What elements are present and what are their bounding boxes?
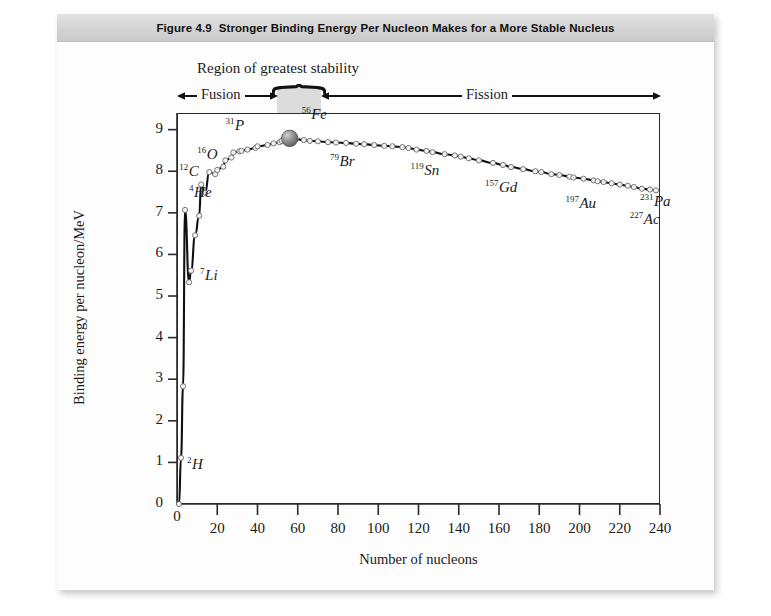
nuclide-mass-number: 231 — [640, 192, 654, 202]
x-tick-label: 140 — [439, 520, 479, 537]
x-tick-label: 120 — [399, 520, 439, 537]
y-tick-label: 5 — [141, 286, 163, 303]
x-tick-label: 100 — [358, 520, 398, 537]
x-tick-label: 200 — [560, 520, 600, 537]
nuclide-label-sn: 119Sn — [410, 162, 439, 178]
nuclide-symbol: Li — [205, 267, 218, 283]
nuclide-symbol: Ac — [644, 211, 660, 227]
nuclide-symbol: He — [194, 184, 212, 200]
x-tick-label: 80 — [318, 520, 358, 537]
y-tick-label: 9 — [141, 120, 163, 137]
nuclide-label-p: 31P — [225, 117, 244, 133]
x-tick-label: 180 — [519, 520, 559, 537]
x-tick-label: 40 — [238, 520, 278, 537]
nuclide-mass-number: 157 — [485, 178, 499, 188]
nuclide-mass-number: 79 — [330, 152, 339, 162]
nuclide-symbol: Pa — [654, 193, 671, 209]
nuclide-label-pa: 231Pa — [640, 193, 671, 209]
nuclide-mass-number: 119 — [410, 161, 423, 171]
y-tick-label: 3 — [141, 369, 163, 386]
nuclide-mass-number: 197 — [565, 194, 579, 204]
nuclide-label-au: 197Au — [565, 195, 596, 211]
nuclide-label-h: 2H — [187, 456, 203, 472]
nuclide-symbol: Au — [579, 195, 596, 211]
nuclide-symbol: Gd — [499, 179, 517, 195]
nuclide-label-o: 16O — [197, 146, 217, 162]
nuclide-label-c: 12C — [179, 163, 199, 179]
nuclide-symbol: H — [192, 456, 203, 472]
nuclide-symbol: Br — [339, 153, 354, 169]
nuclide-mass-number: 16 — [197, 145, 206, 155]
y-tick-label: 7 — [141, 203, 163, 220]
nuclide-symbol: O — [207, 146, 218, 162]
x-tick-label: 160 — [479, 520, 519, 537]
y-tick-label: 6 — [141, 244, 163, 261]
chart-stage: Region of greatest stability Fusion Fiss… — [0, 0, 771, 616]
nuclide-label-fe: 56Fe — [302, 106, 327, 122]
nuclide-symbol: C — [189, 163, 199, 179]
nuclide-mass-number: 4 — [189, 183, 194, 193]
x-tick-label: 240 — [640, 520, 680, 537]
nuclide-mass-number: 227 — [630, 210, 644, 220]
y-tick-label: 4 — [141, 328, 163, 345]
nuclide-label-ac: 227Ac — [630, 211, 660, 227]
y-tick-label: 1 — [141, 452, 163, 469]
y-tick-label: 2 — [141, 411, 163, 428]
nuclide-label-li: 7Li — [200, 267, 218, 283]
x-tick-label: 20 — [197, 520, 237, 537]
nuclide-symbol: Sn — [424, 162, 439, 178]
nuclide-mass-number: 31 — [225, 116, 234, 126]
x-tick-label: 220 — [600, 520, 640, 537]
nuclide-mass-number: 2 — [187, 455, 192, 465]
nuclide-symbol: P — [235, 117, 244, 133]
x-tick-label: 60 — [278, 520, 318, 537]
nuclide-mass-number: 12 — [179, 162, 188, 172]
nuclide-label-gd: 157Gd — [485, 179, 517, 195]
nuclide-mass-number: 7 — [200, 266, 205, 276]
x-tick-label: 0 — [157, 508, 197, 525]
y-axis-title: Binding energy per nucleon/MeV — [71, 178, 88, 438]
y-tick-label: 8 — [141, 161, 163, 178]
x-axis-title: Number of nucleons — [177, 551, 660, 568]
nuclide-label-he: 4He — [189, 184, 212, 200]
nuclide-mass-number: 56 — [302, 105, 311, 115]
nuclide-label-br: 79Br — [330, 153, 355, 169]
nuclide-symbol: Fe — [311, 106, 327, 122]
